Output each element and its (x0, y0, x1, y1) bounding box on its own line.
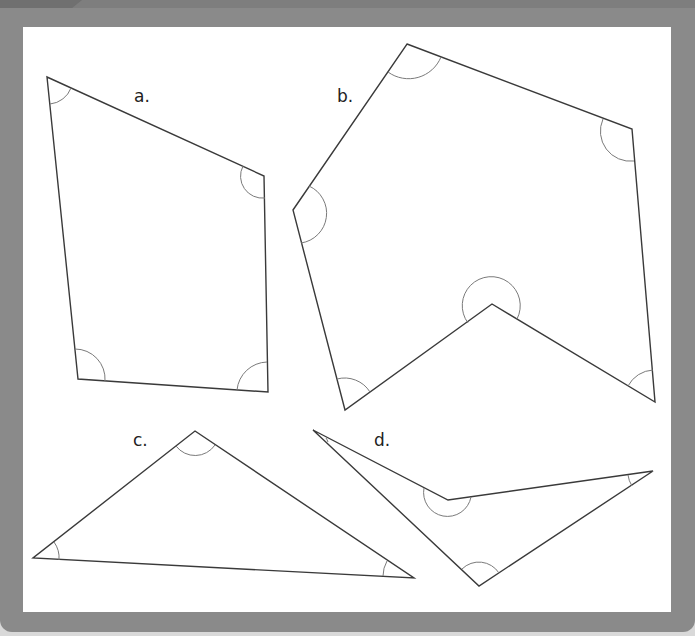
angle-arc-d4 (462, 562, 499, 573)
label-d: d. (374, 430, 390, 450)
angle-arc-a4 (75, 349, 105, 381)
shape-d (313, 430, 653, 586)
angle-arc-b6 (301, 186, 327, 243)
angle-arc-d3 (628, 475, 632, 486)
angle-arc-c2 (383, 561, 387, 576)
angle-arc-d1 (326, 438, 328, 442)
angle-arc-a1 (50, 88, 71, 104)
label-b: b. (337, 86, 353, 106)
angle-arc-c3 (54, 542, 59, 560)
angle-arc-c1 (176, 445, 215, 456)
angle-arc-b2 (600, 119, 634, 161)
angle-arc-b5 (337, 378, 370, 392)
label-a: a. (134, 86, 150, 106)
angle-arc-b3 (628, 370, 653, 386)
angle-arc-a3 (237, 362, 267, 390)
quadrilateral-a-outline (47, 77, 268, 392)
angle-arc-d2-reflex (424, 488, 471, 516)
label-c: c. (133, 430, 148, 450)
shape-a (47, 77, 268, 392)
